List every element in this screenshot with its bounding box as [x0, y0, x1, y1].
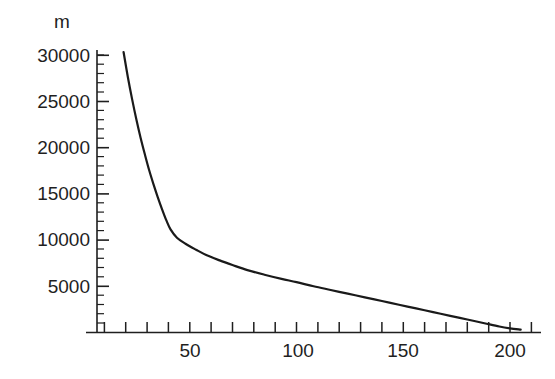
y-tick-label-20000: 20000: [37, 137, 90, 158]
x-axis-ticks: [104, 322, 531, 332]
y-tick-label-30000: 30000: [37, 45, 90, 66]
x-tick-label-50: 50: [179, 340, 200, 361]
y-tick-label-5000: 5000: [48, 276, 90, 297]
y-axis-unit-label: m: [54, 11, 70, 32]
chart-container: m: [0, 0, 555, 379]
y-tick-label-10000: 10000: [37, 229, 90, 250]
line-chart: m: [0, 0, 555, 379]
y-tick-label-15000: 15000: [37, 183, 90, 204]
x-tick-label-150: 150: [387, 340, 419, 361]
y-tick-label-25000: 25000: [37, 91, 90, 112]
x-tick-label-100: 100: [282, 340, 314, 361]
x-tick-label-200: 200: [494, 340, 526, 361]
